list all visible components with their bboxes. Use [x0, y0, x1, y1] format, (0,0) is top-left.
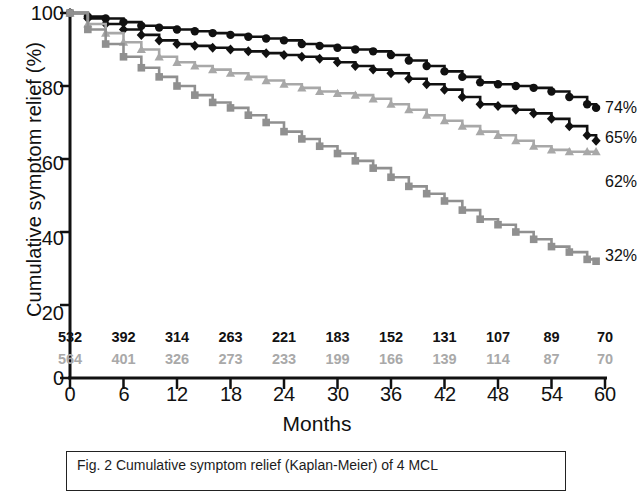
at-risk-value: 326: [149, 352, 205, 367]
at-risk-value: 401: [96, 352, 152, 367]
series-triangle: [65, 8, 600, 155]
x-tick-18: 18: [208, 384, 254, 404]
x-tick-12: 12: [154, 384, 200, 404]
at-risk-value: 114: [470, 352, 526, 367]
at-risk-value: 183: [310, 330, 366, 345]
series-diamond: [65, 8, 600, 146]
x-tick-36: 36: [368, 384, 414, 404]
series-square: [66, 9, 600, 265]
end-label-32: 32%: [605, 248, 637, 264]
at-risk-value: 70: [577, 352, 633, 367]
x-tick-24: 24: [261, 384, 307, 404]
numbers-at-risk-row-gray: 5644013262732331991661391148770: [0, 352, 634, 368]
numbers-at-risk-row-black: 5323923142632211831521311078970: [0, 330, 634, 346]
at-risk-value: 199: [310, 352, 366, 367]
at-risk-value: 131: [417, 330, 473, 345]
x-tick-48: 48: [475, 384, 521, 404]
at-risk-value: 221: [256, 330, 312, 345]
at-risk-value: 139: [417, 352, 473, 367]
at-risk-value: 233: [256, 352, 312, 367]
x-tick-60: 60: [582, 384, 628, 404]
at-risk-value: 87: [524, 352, 580, 367]
x-tick-6: 6: [101, 384, 147, 404]
x-tick-0: 0: [47, 384, 93, 404]
at-risk-value: 532: [42, 330, 98, 345]
series-circle: [66, 9, 600, 112]
x-tick-42: 42: [422, 384, 468, 404]
at-risk-value: 273: [203, 352, 259, 367]
end-label-65: 65%: [605, 130, 637, 146]
at-risk-value: 392: [96, 330, 152, 345]
at-risk-value: 166: [363, 352, 419, 367]
at-risk-value: 70: [577, 330, 633, 345]
at-risk-value: 564: [42, 352, 98, 367]
x-tick-30: 30: [315, 384, 361, 404]
at-risk-value: 89: [524, 330, 580, 345]
x-tick-54: 54: [529, 384, 575, 404]
figure-caption-box: Fig. 2 Cumulative symptom relief (Kaplan…: [66, 451, 566, 491]
at-risk-value: 107: [470, 330, 526, 345]
at-risk-value: 263: [203, 330, 259, 345]
end-label-62: 62%: [605, 174, 637, 190]
end-label-74: 74%: [605, 100, 637, 116]
x-axis-title: Months: [0, 412, 634, 436]
figure-caption-text: Fig. 2 Cumulative symptom relief (Kaplan…: [77, 457, 557, 473]
at-risk-value: 152: [363, 330, 419, 345]
at-risk-value: 314: [149, 330, 205, 345]
